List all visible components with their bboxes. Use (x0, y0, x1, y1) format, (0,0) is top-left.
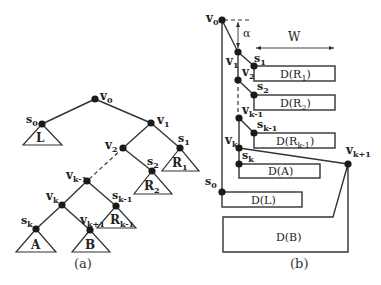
box-label-D-R1: D(R1) (280, 68, 311, 83)
node-vk+1 (344, 160, 351, 167)
edge-vk-vk+1 (239, 148, 348, 164)
label-vk+1: vk+1 (79, 213, 105, 229)
edge-vk-sk (36, 205, 62, 229)
label-v0: v0 (99, 89, 113, 105)
box-label-D-R2: D(R2) (280, 97, 311, 112)
box-label-D-B: D(B) (276, 231, 302, 244)
diagram-canvas: v0 v1 v2 s1 s2 s0 vk-1 vk sk-1 sk vk+1 L… (0, 0, 381, 285)
edge-v2-vk-1-dashed (87, 148, 123, 181)
box-label-D-A: D(A) (268, 165, 293, 178)
label-sk: sk (242, 149, 254, 164)
node-v1 (234, 48, 241, 55)
node-s1 (176, 144, 183, 151)
alpha-arrow-head-down (236, 43, 240, 48)
node-sk (32, 225, 39, 232)
figure-b-drawing: α W v0 v1 s1 v2 s2 vk-1 sk-1 vk sk vk+1 … (205, 11, 371, 271)
subtree-label-A: A (30, 238, 41, 252)
edge-v0-s0 (42, 99, 95, 124)
label-v1: v1 (156, 113, 170, 129)
label-vk-1: vk-1 (65, 168, 87, 184)
label-sk-1: sk-1 (112, 189, 132, 204)
edge-v1-v2 (123, 123, 151, 148)
width-arrow-head-left (256, 46, 261, 50)
node-vk (58, 201, 65, 208)
label-v0: v0 (205, 11, 219, 27)
label-v1: v1 (225, 54, 239, 70)
edge-vk-1-vk (62, 181, 87, 205)
label-vk: vk (224, 133, 238, 149)
label-s1: s1 (178, 132, 190, 147)
node-v2 (234, 76, 241, 83)
label-v2: v2 (104, 138, 118, 154)
node-v2 (119, 144, 126, 151)
node-s0 (38, 120, 45, 127)
label-s0: s0 (205, 175, 217, 190)
node-v0 (91, 95, 98, 102)
label-vk: vk (45, 189, 59, 205)
label-s1: s1 (254, 52, 266, 67)
width-label: W (288, 30, 301, 44)
node-v0 (218, 16, 225, 23)
label-sk-1: sk-1 (257, 118, 277, 133)
caption-a: (a) (74, 256, 92, 271)
edge-v0-v1 (222, 20, 238, 52)
subtree-label-B: B (85, 238, 95, 252)
label-s2: s2 (257, 80, 269, 95)
label-s0: s0 (26, 113, 38, 128)
width-arrow-head-right (329, 46, 334, 50)
node-v1 (147, 119, 154, 126)
label-sk: sk (21, 214, 33, 229)
alpha-label: α (243, 27, 251, 40)
label-s2: s2 (147, 155, 159, 170)
alpha-arrow-head-up (236, 22, 240, 27)
subtree-label-L: L (36, 131, 45, 145)
box-label-D-L: D(L) (251, 194, 276, 207)
label-vk+1: vk+1 (345, 143, 371, 159)
figure-a-tree: v0 v1 v2 s1 s2 s0 vk-1 vk sk-1 sk vk+1 L… (16, 89, 199, 271)
caption-b: (b) (290, 256, 308, 271)
node-s0 (218, 188, 225, 195)
